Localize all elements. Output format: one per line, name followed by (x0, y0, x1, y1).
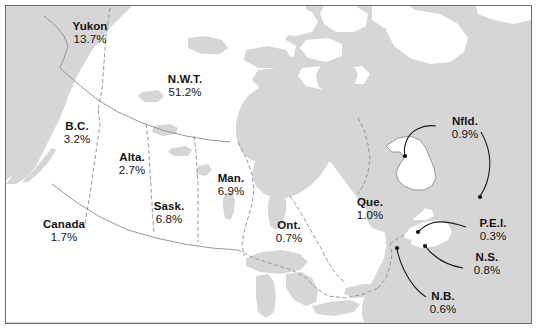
map-graphic (6, 6, 531, 323)
leader-dot-labrador (403, 154, 407, 158)
leader-dot-nb (395, 246, 399, 250)
leader-dot-pei (416, 230, 420, 234)
canada-percentage-map: Yukon 13.7% N.W.T. 51.2% B.C. 3.2% Alta.… (0, 0, 537, 329)
banks-island (152, 12, 192, 40)
map-frame: Yukon 13.7% N.W.T. 51.2% B.C. 3.2% Alta.… (5, 5, 532, 324)
leader-dot-ns (423, 244, 427, 248)
leader-dot-newfoundland (478, 195, 482, 199)
